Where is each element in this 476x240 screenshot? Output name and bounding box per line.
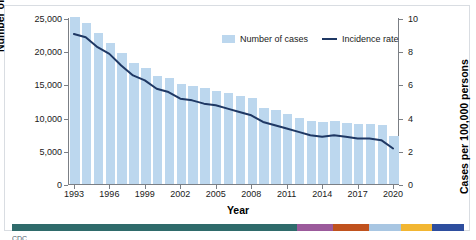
x-tick-2017	[358, 185, 359, 189]
y-tick-label-right-8: 8	[408, 47, 426, 57]
x-tick-label-1999: 1999	[135, 189, 155, 199]
y-tick-label-left-15000: 15,000	[8, 80, 62, 90]
legend-label-number-of-cases: Number of cases	[240, 34, 308, 44]
y-tick-right-10	[399, 19, 403, 20]
x-tick-1999	[145, 185, 146, 189]
legend-label-incidence-rate: Incidence rate	[342, 34, 399, 44]
y-tick-left-0	[64, 185, 68, 186]
x-axis-title: Year	[0, 204, 476, 216]
x-tick-label-1993: 1993	[64, 189, 84, 199]
y-tick-label-left-20000: 20,000	[8, 47, 62, 57]
y-tick-label-right-2: 2	[408, 147, 426, 157]
x-tick-2020	[393, 185, 394, 189]
footer-lightblue-segment	[369, 224, 401, 231]
footer-color-strip	[12, 224, 464, 231]
x-tick-1993	[74, 185, 75, 189]
x-tick-label-2005: 2005	[206, 189, 226, 199]
y-tick-right-8	[399, 52, 403, 53]
y-axis-title-left: Number of cases	[0, 0, 6, 52]
y-tick-label-right-4: 4	[408, 114, 426, 124]
y-tick-right-4	[399, 119, 403, 120]
footer-cut-text: CDC	[12, 235, 27, 240]
x-tick-2002	[180, 185, 181, 189]
y-tick-label-right-10: 10	[408, 14, 426, 24]
x-tick-1996	[109, 185, 110, 189]
x-tick-label-2017: 2017	[348, 189, 368, 199]
y-tick-label-right-0: 0	[408, 180, 426, 190]
legend-item-number-of-cases: Number of cases	[222, 34, 308, 44]
x-tick-label-1996: 1996	[99, 189, 119, 199]
legend-line-swatch-icon	[322, 38, 337, 40]
footer-purple-segment	[297, 224, 333, 231]
footer-rust-segment	[333, 224, 369, 231]
x-tick-label-2002: 2002	[170, 189, 190, 199]
x-tick-2008	[251, 185, 252, 189]
legend-bar-swatch-icon	[222, 35, 235, 43]
y-tick-label-left-25000: 25,000	[8, 14, 62, 24]
x-tick-label-2008: 2008	[241, 189, 261, 199]
x-tick-2011	[287, 185, 288, 189]
x-tick-label-2011: 2011	[277, 189, 296, 199]
y-tick-right-2	[399, 152, 403, 153]
footer-teal-segment	[12, 224, 297, 231]
y-tick-label-left-5000: 5,000	[8, 147, 62, 157]
chart-figure: Number of cases Cases per 100,000 person…	[0, 0, 476, 240]
y-tick-label-left-0: 0	[8, 180, 62, 190]
y-tick-label-right-6: 6	[408, 80, 426, 90]
y-axis-title-right: Cases per 100,000 persons	[458, 59, 470, 194]
footer-navy-segment	[432, 224, 464, 231]
x-tick-2005	[216, 185, 217, 189]
y-tick-right-6	[399, 85, 403, 86]
y-tick-label-left-10000: 10,000	[8, 114, 62, 124]
footer-gold-segment	[401, 224, 433, 231]
x-tick-label-2020: 2020	[383, 189, 403, 199]
chart-legend: Number of cases Incidence rate	[222, 34, 399, 44]
y-tick-right-0	[399, 185, 403, 186]
x-tick-label-2014: 2014	[312, 189, 332, 199]
x-tick-2014	[322, 185, 323, 189]
legend-item-incidence-rate: Incidence rate	[322, 34, 399, 44]
